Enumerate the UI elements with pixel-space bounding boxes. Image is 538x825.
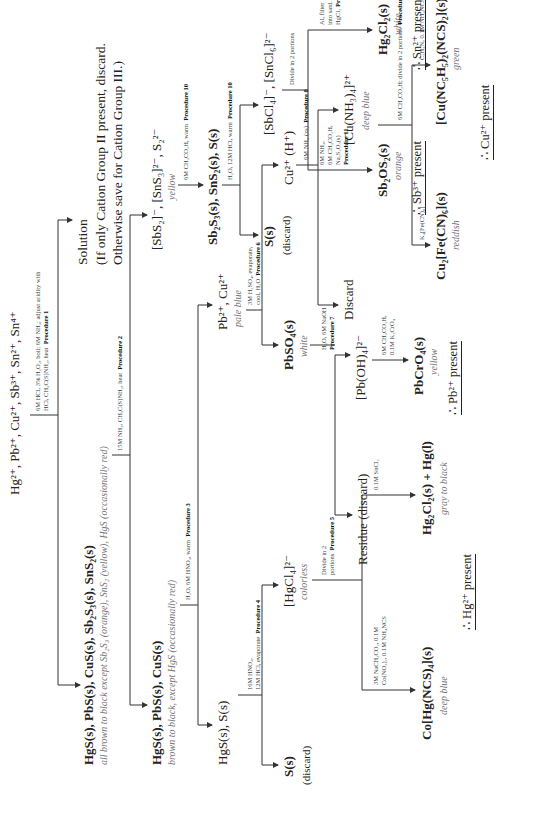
result-cu-present: ∴ Cu²⁺ present (478, 85, 494, 160)
solution-title: Solution (74, 43, 92, 265)
node-hg2cl2-hg-color: gray to black (438, 462, 450, 515)
node-hg-pb-cu-sulfides: HgS(s), PbS(s), CuS(s) (150, 641, 165, 765)
result-sb-present: ∴ Sb³⁺ present (410, 141, 426, 215)
procedure-label: Procedure 2 (116, 336, 123, 370)
step-procedure-4: 16M HNO₃, 12M HCl, evaporate Procedure 4 (246, 600, 262, 690)
node-thio-color: yellow (166, 174, 178, 200)
step-text: 0.1M K₂CrO₄ (388, 315, 396, 355)
step-procedure-7: H₂O, 6M NaOH Procedure 7 (320, 307, 336, 350)
node-cu-pyridine: [Cu(NC₅H₅)₂(NCS)₂](s) (434, 0, 449, 125)
step-text: Divide in 2 (320, 517, 328, 575)
step-text: 3M NaCH₃CO₂, 0.1M (372, 616, 380, 685)
step-divide-sb-sn: Divide in 2 portions (288, 33, 296, 85)
node-cu-ammine: [Cu(NH₃)₄]²⁺ (342, 74, 357, 145)
step-text: Al, filter (318, 0, 326, 25)
node-sulfur-discard-2: S(s) (282, 756, 297, 777)
solution-note: Otherwise save for Cation Group III.) (109, 43, 127, 265)
procedure-label: Procedure 4 (254, 600, 261, 634)
procedure-label: Procedure 1 (42, 311, 49, 345)
procedure-label: Procedure 8 (302, 89, 309, 123)
node-plumbite: [Pb(OH)₄]²⁻ (354, 335, 369, 400)
step-text: Co(NO₃)₂, 0.1M NH₄NCS (380, 616, 388, 685)
node-chloro-complexes: [SbCl₄]⁻, [SnCl₆]²⁻ (262, 32, 277, 135)
flowchart-rotated: Hg²⁺, Pb²⁺, Cu²⁺, Sb³⁺, Sn²⁺, Sn⁴⁺ 6M HC… (0, 0, 538, 825)
node-cu-h: Cu²⁺ (H⁺) (282, 131, 297, 185)
procedure-label: Procedure 10 (182, 84, 189, 121)
node-sb2os2-color: orange (392, 152, 404, 180)
node-pbcro4-color: yellow (428, 349, 440, 375)
step-text: 3M H₂SO₄, evaporate, (246, 242, 254, 305)
node-discard: Discard (342, 280, 357, 320)
procedure-label: Procedure 3 (184, 503, 191, 537)
procedure-label: Procedure 9 (396, 0, 403, 25)
step-procedure-10b: H₂O, 12M HCl, warm Procedure 10 (226, 82, 234, 180)
step-text: into satd. (326, 0, 334, 25)
procedure-label: Procedure 6 (254, 242, 261, 276)
step-text: 6M NH₃ (xs) (302, 126, 309, 160)
step-text: 6M NH₃, (318, 125, 326, 165)
step-pyridine: C₅H₅N, 0.1M NH₄NCS (418, 0, 426, 60)
node-pbso4-color: white (298, 335, 310, 357)
step-text: H₂O, 6M HNO₃, warm (184, 540, 191, 600)
step-procedure-5: Divide in 2 portions Procedure 5 (320, 517, 336, 575)
node-hg2cl2-hg: Hg₂Cl₂(s) + Hg(l) (420, 441, 435, 535)
procedure-label: Procedure 12 (334, 0, 341, 7)
step-procedure-8: 6M NH₃ (xs) Procedure 8 (302, 89, 310, 160)
node-cu-pyridine-color: green (450, 48, 462, 70)
step-stannous-chloride: 0.1M SnCl₂ (372, 459, 380, 490)
node-sb2os2: Sb₂OS₂(s) (376, 144, 391, 197)
step-procedure-2: 15M NH₃, CH₃C(S)NH₂, heat Procedure 2 (116, 336, 124, 451)
step-procedure-3: H₂O, 6M HNO₃, warm Procedure 3 (184, 503, 192, 600)
step-procedure-9: 6M CH₃CO₂H; divide in 2 portions Procedu… (396, 0, 404, 120)
node-pbso4: PbSO₄(s) (282, 320, 297, 370)
node-sulfur-discard-1: S(s) (262, 226, 277, 247)
procedure-label: Procedure 7 (328, 307, 336, 350)
step-cobalt-thiocyanate: 3M NaCH₃CO₂, 0.1M Co(NO₃)₂, 0.1M NH₄NCS (372, 616, 388, 685)
node-solution: Solution (If only Cation Group II presen… (74, 43, 127, 265)
procedure-label: Procedure 5 (328, 517, 335, 551)
node-cu-ferrocyanide-color: reddish (450, 220, 462, 250)
node-pb-cu-color: pale blue (232, 290, 244, 327)
step-procedure-1: 6M HCl, 3% H₂O₂, boil; 6M NH₃; adjust ac… (34, 271, 50, 411)
step-text: 6M CH₃CO₂H; divide in 2 portions (396, 28, 403, 120)
step-text: HCl, CH₃C(S)NH₂, heat (42, 348, 49, 411)
node-start-ions: Hg²⁺, Pb²⁺, Cu²⁺, Sb³⁺, Sn²⁺, Sn⁴⁺ (8, 311, 23, 495)
node-pb-cu-ions: Pb²⁺, Cu²⁺ (216, 273, 231, 330)
node-sulfur-discard-1-note: (discard) (280, 216, 293, 255)
node-sb-sn-sulfides: Sb₂S₃(s), SnS₂(s), S(s) (206, 129, 221, 245)
node-hgs-s: HgS(s), S(s) (216, 701, 231, 765)
step-procedure-10a: 6M CH₃CO₂H, warm Procedure 10 (182, 84, 190, 180)
node-cu-ammine-color: deep blue (360, 91, 372, 130)
step-text: 6M CH₃CO₂H, warm (182, 124, 189, 180)
node-thio-anions: [SbS₂]⁻, [SnS₃]²⁻, S₂²⁻ (150, 129, 165, 250)
node-co-hg-thiocyanate: Co[Hg(NCS)₄](s) (420, 647, 435, 740)
step-ferrocyanide: K₄[Fe(CN)₆] (418, 207, 426, 240)
result-hg-present: ∴ Hg²⁺ present (460, 554, 476, 630)
step-text: H₂O, 6M NaOH (320, 307, 328, 350)
solution-note: (If only Cation Group II present, discar… (92, 43, 110, 265)
procedure-label: Procedure 10 (226, 82, 233, 119)
step-text: HgCl₂ (334, 9, 341, 25)
step-text: 16M HNO₃, (246, 600, 254, 690)
step-text: 15M NH₃, CH₃C(S)NH₂, heat (116, 373, 123, 451)
node-cu-ferrocyanide: Cu₂[Fe(CN)₆](s) (434, 192, 449, 280)
node-group-ppt: HgS(s), PbS(s), CuS(s), Sb₂S₃(s), SnS₂(s… (82, 545, 97, 765)
node-co-hg-thiocyanate-color: deep blue (438, 676, 450, 715)
node-tetrachloromercurate-color: colorless (298, 564, 310, 600)
step-procedure-6: 3M H₂SO₄, evaporate, cool, H₂O Procedure… (246, 242, 262, 305)
step-text: 6M CH₃CO₂H, (326, 125, 334, 165)
step-text: 6M HCl, 3% H₂O₂, boil; 6M NH₃; adjust ac… (34, 271, 42, 411)
node-residue: Residue (discard) (356, 474, 371, 565)
step-text: 6M CH₃CO₂H, (380, 315, 388, 355)
node-sulfur-discard-2-note: (discard) (300, 746, 313, 785)
step-text: cool, H₂O (254, 279, 261, 305)
node-group-ppt-color: all brown to black except Sb₂S₃ (orange)… (98, 446, 110, 765)
step-text: portions (328, 554, 335, 575)
step-procedure-12: Al, filter into satd. HgCl₂ Procedure 12 (318, 0, 342, 25)
result-pb-present: ∴ Pb²⁺ present (446, 341, 462, 415)
node-hg2cl2-white: Hg₂Cl₂(s) (376, 4, 391, 55)
step-chromate: 6M CH₃CO₂H, 0.1M K₂CrO₄ (380, 315, 396, 355)
step-text: H₂O, 12M HCl, warm (226, 122, 233, 180)
step-text: 12M HCl, evaporate (254, 637, 261, 690)
node-hg-pb-cu-sulfides-color: brown to black, except HgS (occasionally… (166, 580, 178, 765)
